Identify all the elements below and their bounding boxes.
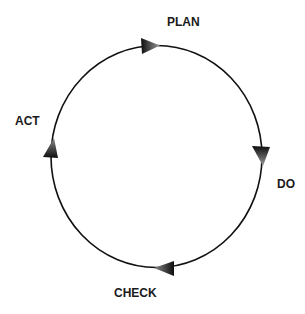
stage-label-do: DO: [277, 178, 295, 190]
cycle-ring: [51, 46, 262, 268]
stage-label-check: CHECK: [114, 287, 157, 299]
arrow-down-icon: [252, 146, 270, 166]
arrow-up-icon: [43, 138, 58, 158]
arrow-left-icon: [154, 261, 174, 276]
pdca-cycle-diagram: [0, 0, 305, 314]
stage-label-plan: PLAN: [167, 16, 200, 28]
stage-label-act: ACT: [15, 115, 40, 127]
arrow-right-icon: [141, 38, 160, 54]
